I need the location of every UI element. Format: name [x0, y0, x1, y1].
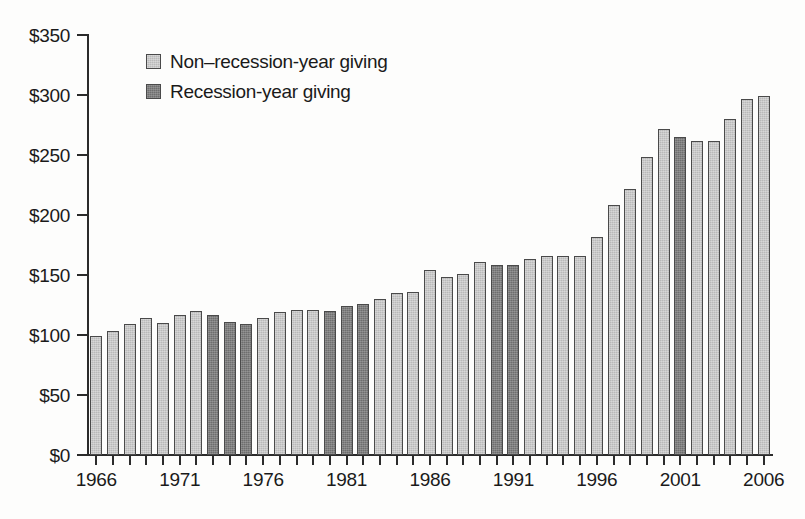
legend-label: Recession-year giving — [170, 82, 351, 101]
x-axis-tick — [212, 455, 214, 465]
bar — [424, 270, 436, 455]
bar — [758, 96, 770, 455]
y-axis-tick — [77, 214, 88, 216]
bar — [291, 310, 303, 455]
bar — [507, 265, 519, 455]
y-axis-tick — [77, 154, 88, 156]
x-axis-tick — [746, 455, 748, 465]
bar — [524, 259, 536, 455]
x-axis-tick — [696, 455, 698, 465]
x-axis-tick — [496, 455, 498, 465]
x-axis-tick — [412, 455, 414, 465]
x-axis-tick-label: 1996 — [576, 470, 617, 489]
bar — [140, 318, 152, 455]
legend-swatch-recession — [146, 84, 161, 99]
bar — [374, 299, 386, 455]
y-axis-tick-label: $150 — [0, 266, 70, 285]
x-axis-tick — [312, 455, 314, 465]
x-axis-tick — [462, 455, 464, 465]
x-axis-tick — [229, 455, 231, 465]
x-axis-tick-label: 1971 — [159, 470, 200, 489]
x-axis-tick — [729, 455, 731, 465]
y-axis-tick — [77, 274, 88, 276]
y-axis-tick-label: $0 — [0, 446, 70, 465]
bar — [307, 310, 319, 455]
bar — [207, 315, 219, 455]
bar — [557, 256, 569, 455]
x-axis-tick — [429, 455, 431, 465]
x-axis-tick — [245, 455, 247, 465]
bar — [457, 274, 469, 455]
x-axis-tick — [663, 455, 665, 465]
x-axis-tick — [713, 455, 715, 465]
legend-label: Non–recession-year giving — [170, 52, 387, 71]
bar — [491, 265, 503, 455]
bar — [240, 324, 252, 455]
bar — [391, 293, 403, 455]
x-axis-tick — [629, 455, 631, 465]
y-axis-tick-label: $350 — [0, 26, 70, 45]
bar — [574, 256, 586, 455]
chart-legend: Non–recession-year givingRecession-year … — [146, 48, 387, 108]
bar — [341, 306, 353, 455]
bar — [190, 311, 202, 455]
x-axis-tick — [145, 455, 147, 465]
x-axis-tick — [362, 455, 364, 465]
y-axis-tick-label: $100 — [0, 326, 70, 345]
x-axis-tick — [112, 455, 114, 465]
bar — [224, 322, 236, 455]
x-axis-tick — [479, 455, 481, 465]
bar — [608, 205, 620, 455]
x-axis-tick — [562, 455, 564, 465]
y-axis-tick — [77, 334, 88, 336]
bar — [724, 119, 736, 455]
x-axis-tick-label: 1976 — [243, 470, 284, 489]
bar — [107, 331, 119, 455]
bar — [124, 324, 136, 455]
y-axis-tick-label: $200 — [0, 206, 70, 225]
bar — [708, 141, 720, 455]
bar — [474, 262, 486, 455]
bar — [324, 311, 336, 455]
x-axis-tick — [546, 455, 548, 465]
y-axis-tick-label: $250 — [0, 146, 70, 165]
x-axis-tick — [129, 455, 131, 465]
x-axis-tick — [195, 455, 197, 465]
y-axis-tick-label: $50 — [0, 386, 70, 405]
x-axis-tick — [162, 455, 164, 465]
x-axis-tick — [179, 455, 181, 465]
bar — [541, 256, 553, 455]
x-axis-tick — [763, 455, 765, 465]
x-axis-tick-label: 1966 — [76, 470, 117, 489]
bar — [274, 312, 286, 455]
x-axis-tick-label: 1986 — [409, 470, 450, 489]
x-axis-tick — [646, 455, 648, 465]
x-axis-tick-label: 1981 — [326, 470, 367, 489]
x-axis-tick — [579, 455, 581, 465]
y-axis-tick — [77, 454, 88, 456]
bar — [357, 304, 369, 455]
x-axis-tick — [296, 455, 298, 465]
y-axis-tick — [77, 94, 88, 96]
bar — [691, 141, 703, 455]
bar — [157, 323, 169, 455]
bar — [641, 157, 653, 455]
x-axis-tick — [512, 455, 514, 465]
y-axis-tick — [77, 394, 88, 396]
bar — [591, 237, 603, 455]
x-axis-tick — [262, 455, 264, 465]
x-axis-tick-label: 2001 — [660, 470, 701, 489]
x-axis-tick — [346, 455, 348, 465]
x-axis-tick — [596, 455, 598, 465]
bar — [624, 189, 636, 455]
x-axis-tick — [329, 455, 331, 465]
legend-item: Non–recession-year giving — [146, 48, 387, 75]
bar — [257, 318, 269, 455]
x-axis-tick — [95, 455, 97, 465]
x-axis-tick-label: 2006 — [743, 470, 784, 489]
bar — [407, 292, 419, 455]
bar — [90, 336, 102, 455]
bar — [741, 99, 753, 455]
x-axis-tick — [396, 455, 398, 465]
bar — [674, 137, 686, 455]
